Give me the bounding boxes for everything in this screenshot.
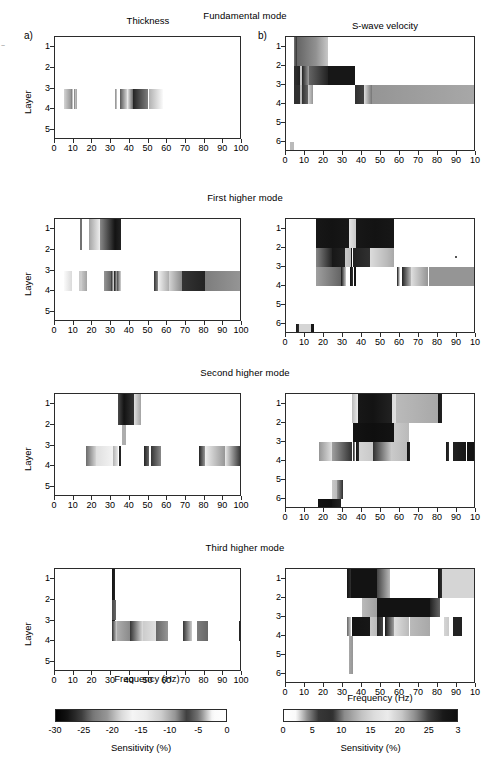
x-tick-mark <box>110 139 111 143</box>
x-tick-mark <box>285 683 286 687</box>
y-tick-mark <box>50 578 54 579</box>
y-tick-label: 1 <box>269 398 281 408</box>
figure-root: ~ Fundamental modeThicknessS-wave veloci… <box>0 0 490 765</box>
heatmap-band <box>411 267 428 286</box>
heatmap-band <box>353 248 370 267</box>
x-tick-mark <box>380 683 381 687</box>
y-axis-label: Layer <box>22 447 33 471</box>
heatmap-plot-left[interactable] <box>54 393 241 496</box>
heatmap-band <box>387 248 395 267</box>
colorbar-tick-label: -5 <box>185 725 211 735</box>
heatmap-band <box>134 394 141 425</box>
colorbar-tick-label: -15 <box>128 725 154 735</box>
heatmap-band <box>377 617 383 636</box>
y-tick-mark <box>50 620 54 621</box>
heatmap-plot-left[interactable] <box>54 568 241 671</box>
x-tick-mark <box>475 151 476 155</box>
x-tick-mark <box>204 321 205 325</box>
y-tick-mark <box>281 597 285 598</box>
y-tick-mark <box>50 311 54 312</box>
mode-title: First higher mode <box>0 192 490 203</box>
x-tick-mark <box>475 683 476 687</box>
heatmap-band <box>385 617 395 636</box>
colorbar-tick-label: 25 <box>416 725 442 735</box>
y-tick-mark <box>281 479 285 480</box>
mode-group-1: First higher modeLayer123450102030405060… <box>0 192 490 367</box>
heatmap-plot-right[interactable] <box>285 393 475 508</box>
y-tick-label: 2 <box>269 242 281 252</box>
y-tick-mark <box>50 661 54 662</box>
panel-left-fundamental-mode: 123450102030405060708090100 <box>54 36 241 139</box>
x-tick-mark <box>304 333 305 337</box>
heatmap-band <box>297 37 316 66</box>
x-tick-mark <box>241 321 242 325</box>
heatmap-band <box>316 219 331 248</box>
heatmap-band <box>119 446 122 467</box>
y-tick-mark <box>50 46 54 47</box>
x-tick-mark <box>241 139 242 143</box>
heatmap-band <box>332 219 349 248</box>
heatmap-band <box>438 394 442 423</box>
heatmap-band <box>115 89 116 110</box>
heatmap-band <box>130 621 143 642</box>
y-tick-label: 3 <box>269 436 281 446</box>
heatmap-band <box>347 617 351 636</box>
x-tick-mark <box>304 508 305 512</box>
heatmap-plot-right[interactable] <box>285 36 475 151</box>
heatmap-band <box>377 569 390 598</box>
heatmap-band <box>311 324 314 333</box>
y-tick-mark <box>50 403 54 404</box>
heatmap-band <box>71 89 73 110</box>
x-tick-mark <box>285 508 286 512</box>
x-tick-mark <box>73 321 74 325</box>
y-tick-label: 1 <box>38 573 50 583</box>
y-tick-label: 1 <box>269 223 281 233</box>
heatmap-band <box>370 248 387 267</box>
x-tick-mark <box>437 683 438 687</box>
y-tick-mark <box>281 141 285 142</box>
heatmap-band <box>318 499 331 508</box>
colorbar-right: 05101520253Sensitivity (%) <box>283 709 458 722</box>
y-tick-mark <box>281 403 285 404</box>
x-tick-mark <box>54 496 55 500</box>
heatmap-band <box>158 271 169 292</box>
colorbar-tick-label: 0 <box>270 725 296 735</box>
heatmap-band <box>429 267 476 286</box>
heatmap-band <box>151 446 160 467</box>
heatmap-band <box>332 442 352 461</box>
y-tick-label: 5 <box>269 299 281 309</box>
heatmap-plot-right[interactable] <box>285 568 475 683</box>
y-tick-mark <box>50 465 54 466</box>
x-tick-mark <box>437 151 438 155</box>
x-tick-mark <box>54 321 55 325</box>
x-tick-mark <box>399 333 400 337</box>
heatmap-band <box>453 617 462 636</box>
heatmap-band <box>430 598 440 617</box>
x-tick-mark <box>342 508 343 512</box>
mode-group-2: Second higher modeLayer12345010203040506… <box>0 367 490 542</box>
y-tick-mark <box>50 129 54 130</box>
heatmap-band <box>239 621 241 642</box>
x-tick-mark <box>73 496 74 500</box>
x-tick-mark <box>110 496 111 500</box>
y-tick-label: 2 <box>38 419 50 429</box>
colorbar-tick-label: -10 <box>157 725 183 735</box>
heatmap-band <box>446 442 450 461</box>
y-tick-mark <box>50 640 54 641</box>
y-tick-label: 3 <box>269 79 281 89</box>
x-tick-mark <box>73 139 74 143</box>
y-tick-mark <box>281 103 285 104</box>
y-tick-mark <box>281 673 285 674</box>
y-tick-label: 1 <box>38 223 50 233</box>
colorbar-right-gradient <box>283 709 458 722</box>
heatmap-band <box>302 66 309 85</box>
heatmap-plot-left[interactable] <box>54 36 241 139</box>
y-tick-label: 5 <box>38 656 50 666</box>
heatmap-band <box>197 621 208 642</box>
heatmap-plot-right[interactable] <box>285 218 475 333</box>
heatmap-band <box>353 423 373 442</box>
y-tick-mark <box>50 67 54 68</box>
heatmap-plot-left[interactable] <box>54 218 241 321</box>
heatmap-band <box>354 267 356 286</box>
y-tick-label: 6 <box>269 136 281 146</box>
